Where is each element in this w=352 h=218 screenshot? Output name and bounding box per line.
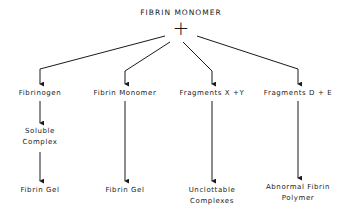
plus-operator: + bbox=[173, 18, 190, 38]
node-unclottable-line2: Complexes bbox=[190, 196, 234, 207]
node-fragments-xy: Fragments X +Y bbox=[180, 88, 245, 99]
node-fragments-de: Fragments D + E bbox=[264, 88, 332, 99]
node-soluble-complex-line2: Complex bbox=[23, 137, 58, 148]
arrow-root-to-fibrin-monomer bbox=[125, 42, 170, 84]
node-abnormal-line1: Abnormal Fibrin bbox=[266, 182, 330, 193]
node-fibrin-gel-1: Fibrin Gel bbox=[20, 185, 59, 196]
node-soluble-complex-line1: Soluble bbox=[25, 126, 55, 137]
node-fibrinogen: Fibrinogen bbox=[19, 88, 62, 99]
node-unclottable-line1: Unclottable bbox=[189, 185, 236, 196]
arrow-root-to-fibrinogen bbox=[40, 36, 165, 84]
node-abnormal-line2: Polymer bbox=[282, 193, 315, 204]
arrow-root-to-fragments-xy bbox=[183, 42, 212, 84]
node-fibrin-gel-2: Fibrin Gel bbox=[105, 185, 144, 196]
node-fibrin-monomer: Fibrin Monomer bbox=[94, 88, 157, 99]
